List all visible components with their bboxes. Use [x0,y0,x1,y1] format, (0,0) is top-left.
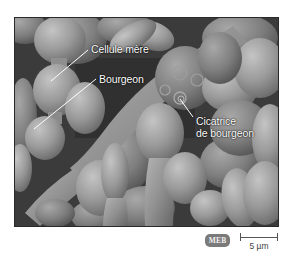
meb-badge: MEB [205,234,230,247]
scale-tick-right [277,233,278,241]
label-bud-scar-line1: Cicatrice [196,115,236,127]
label-bud: Bourgeon [99,73,144,85]
scale-label: 5 µm [240,241,278,251]
figure: Cellule mère Bourgeon Cicatrice de bourg… [0,0,294,261]
scale-bar-line [240,237,278,238]
label-mother-cell: Cellule mère [91,43,149,55]
scale-bar [240,233,278,241]
label-bud-scar-line2: de bourgeon [196,127,254,139]
